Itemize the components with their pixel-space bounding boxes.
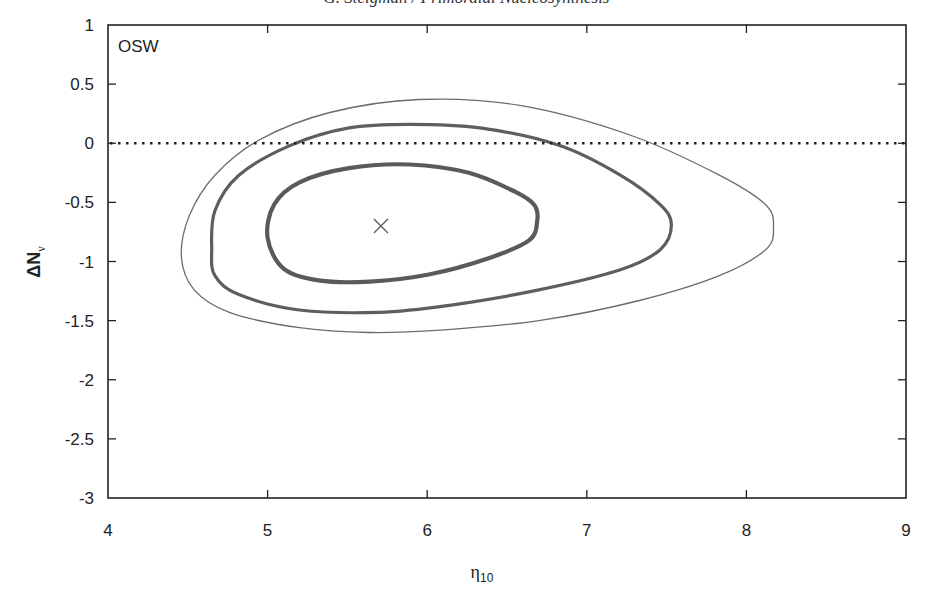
y-tick-label: -2 bbox=[79, 371, 94, 390]
y-axis-title: ΔNν bbox=[24, 246, 48, 278]
y-axis: 10.50-0.5-1-1.5-2-2.5-3 bbox=[65, 16, 906, 508]
y-tick-label: -1.5 bbox=[65, 312, 94, 331]
panel-label: OSW bbox=[118, 37, 159, 56]
y-tick-label: 1 bbox=[85, 16, 94, 35]
contour-line-2 bbox=[212, 124, 672, 312]
y-tick-label: 0 bbox=[85, 134, 94, 153]
x-tick-label: 7 bbox=[582, 521, 591, 540]
x-axis-title: η10 bbox=[471, 562, 494, 585]
plot-frame bbox=[108, 25, 906, 498]
x-tick-label: 6 bbox=[422, 521, 431, 540]
x-tick-label: 9 bbox=[901, 521, 910, 540]
contour-chart: 456789 10.50-0.5-1-1.5-2-2.5-3 OSW η10 Δ… bbox=[0, 0, 933, 590]
x-tick-label: 4 bbox=[103, 521, 112, 540]
x-tick-label: 5 bbox=[263, 521, 272, 540]
contour-series bbox=[181, 99, 773, 332]
y-tick-label: -0.5 bbox=[65, 193, 94, 212]
y-tick-label: 0.5 bbox=[70, 75, 94, 94]
x-tick-label: 8 bbox=[742, 521, 751, 540]
y-tick-label: -2.5 bbox=[65, 430, 94, 449]
y-axis-title-sub: ν bbox=[34, 246, 48, 252]
y-tick-label: -1 bbox=[79, 253, 94, 272]
y-tick-label: -3 bbox=[79, 489, 94, 508]
best-fit-marker-icon bbox=[374, 219, 388, 233]
x-axis-title-sub: 10 bbox=[480, 571, 494, 585]
x-axis-title-main: η bbox=[471, 562, 480, 582]
x-axis: 456789 bbox=[103, 25, 910, 540]
y-axis-title-main: ΔN bbox=[24, 252, 44, 278]
contour-line-3 bbox=[267, 164, 538, 282]
